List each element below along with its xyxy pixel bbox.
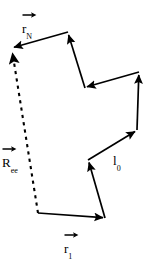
label-r-n-sub: N bbox=[26, 32, 32, 41]
bond-segment-4 bbox=[137, 75, 139, 130]
label-r-ee: Ree bbox=[2, 154, 18, 173]
vector-arrow-icon bbox=[2, 145, 18, 153]
label-l-0: l0 bbox=[113, 152, 121, 171]
vector-arrow-icon bbox=[22, 11, 38, 19]
label-r-ee-sub: ee bbox=[11, 166, 18, 175]
label-r-1: r1 bbox=[64, 240, 72, 259]
label-l-0-sub: 0 bbox=[117, 164, 121, 173]
chain-bond-segments bbox=[14, 32, 139, 218]
label-r-1-sub: 1 bbox=[68, 252, 72, 259]
bond-segment-6 bbox=[69, 35, 85, 88]
bond-segment-3 bbox=[88, 132, 135, 161]
vector-arrow-icon bbox=[64, 231, 80, 239]
bond-segment-5 bbox=[87, 72, 139, 87]
label-r-n: rN bbox=[22, 20, 32, 39]
bond-segment-2 bbox=[89, 163, 105, 219]
end-to-end-vector-dashed bbox=[13, 53, 39, 213]
label-r-ee-base: R bbox=[2, 155, 11, 170]
bond-segment-1 bbox=[38, 213, 103, 218]
chain-diagram-figure: rN r1 Ree l0 bbox=[0, 0, 155, 259]
